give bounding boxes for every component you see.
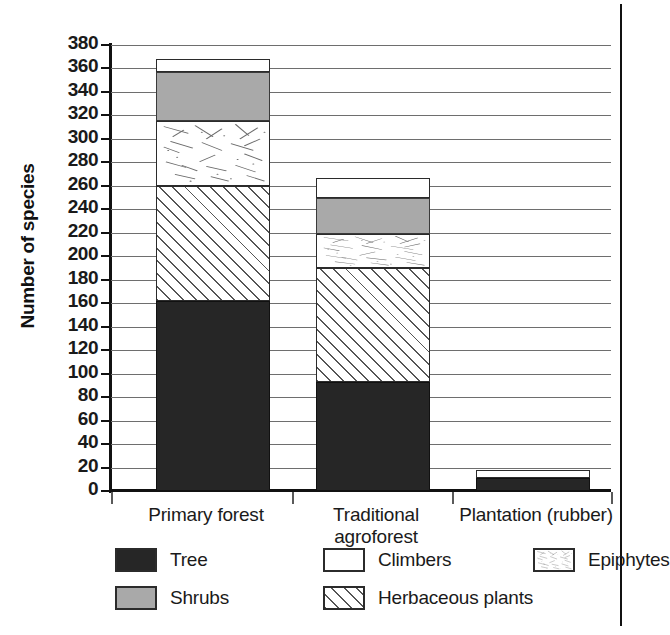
legend-label: Herbaceous plants (378, 587, 533, 609)
x-axis-separator-2 (452, 492, 454, 504)
bar-segment-climbers (476, 470, 590, 478)
category-label-line: Plantation (rubber) (448, 504, 624, 526)
legend-label: Climbers (378, 549, 451, 571)
y-tick-label-180: 180 (40, 267, 98, 289)
y-tick-40 (101, 443, 111, 445)
y-tick-120 (101, 349, 111, 351)
y-tick-180 (101, 279, 111, 281)
bar-segment-tree (316, 382, 430, 491)
y-tick-160 (101, 302, 111, 304)
legend-item-climbers[interactable]: Climbers (323, 548, 451, 572)
bar-plantation-rubber (476, 470, 590, 491)
category-label-line: agroforest (288, 526, 464, 548)
y-tick-300 (101, 138, 111, 140)
y-tick-label-120: 120 (40, 337, 98, 359)
legend-swatch-herbaceous-plants-icon (323, 586, 365, 610)
y-tick-label-260: 260 (40, 173, 98, 195)
y-tick-380 (101, 44, 111, 46)
y-tick-label-0: 0 (40, 478, 98, 500)
bar-segment-epiphytes (156, 121, 270, 186)
y-axis-line (109, 43, 112, 493)
y-tick-label-80: 80 (40, 384, 98, 406)
legend-item-shrubs[interactable]: Shrubs (115, 586, 229, 610)
y-tick-label-280: 280 (40, 149, 98, 171)
x-axis-separator-1 (292, 492, 294, 504)
legend-swatch-climbers-icon (323, 548, 365, 572)
legend-label: Tree (170, 549, 208, 571)
y-tick-label-220: 220 (40, 220, 98, 242)
y-tick-label-300: 300 (40, 126, 98, 148)
y-tick-200 (101, 255, 111, 257)
y-tick-100 (101, 373, 111, 375)
bar-segment-herbaceous-plants (156, 186, 270, 301)
page-gutter-rule (620, 4, 622, 626)
chart-legend: TreeClimbersEpiphytesShrubsHerbaceous pl… (115, 548, 615, 620)
y-tick-0 (101, 490, 111, 492)
y-tick-260 (101, 185, 111, 187)
y-tick-280 (101, 161, 111, 163)
category-label-primary-forest: Primary forest (118, 504, 294, 526)
category-label-traditional-agroforest: Traditionalagroforest (288, 504, 464, 548)
y-tick-label-380: 380 (40, 32, 98, 54)
bar-segment-epiphytes (316, 234, 430, 268)
bar-segment-tree (476, 478, 590, 491)
bar-primary-forest (156, 59, 270, 491)
y-tick-label-360: 360 (40, 55, 98, 77)
y-tick-label-20: 20 (40, 455, 98, 477)
y-tick-340 (101, 91, 111, 93)
legend-swatch-shrubs-icon (115, 586, 157, 610)
y-tick-360 (101, 67, 111, 69)
bar-traditional-agroforest (316, 178, 430, 491)
y-tick-label-240: 240 (40, 196, 98, 218)
y-tick-140 (101, 326, 111, 328)
bar-segment-shrubs (316, 198, 430, 234)
category-label-line: Traditional (288, 504, 464, 526)
y-tick-label-160: 160 (40, 290, 98, 312)
bar-segment-climbers (316, 178, 430, 198)
bar-segment-herbaceous-plants (316, 268, 430, 382)
y-tick-label-140: 140 (40, 314, 98, 336)
y-tick-label-320: 320 (40, 102, 98, 124)
y-tick-20 (101, 467, 111, 469)
y-tick-label-100: 100 (40, 361, 98, 383)
y-tick-80 (101, 396, 111, 398)
legend-item-epiphytes[interactable]: Epiphytes (533, 548, 670, 572)
bar-segment-tree (156, 301, 270, 491)
y-tick-label-340: 340 (40, 79, 98, 101)
x-axis-separator-3 (611, 492, 613, 504)
category-label-line: Primary forest (118, 504, 294, 526)
y-axis-title: Number of species (17, 136, 39, 356)
category-label-plantation-rubber: Plantation (rubber) (448, 504, 624, 526)
x-axis-separator-0 (111, 492, 113, 504)
gridline-380 (111, 45, 611, 46)
y-tick-220 (101, 232, 111, 234)
legend-swatch-tree-icon (115, 548, 157, 572)
bar-segment-shrubs (156, 72, 270, 121)
legend-item-herbaceous-plants[interactable]: Herbaceous plants (323, 586, 533, 610)
y-tick-320 (101, 114, 111, 116)
legend-label: Epiphytes (588, 549, 670, 571)
y-tick-240 (101, 208, 111, 210)
legend-label: Shrubs (170, 587, 229, 609)
legend-swatch-epiphytes-icon (533, 548, 575, 572)
y-tick-label-200: 200 (40, 243, 98, 265)
y-tick-label-40: 40 (40, 431, 98, 453)
y-tick-label-60: 60 (40, 408, 98, 430)
y-tick-60 (101, 420, 111, 422)
legend-item-tree[interactable]: Tree (115, 548, 208, 572)
bar-segment-climbers (156, 59, 270, 72)
